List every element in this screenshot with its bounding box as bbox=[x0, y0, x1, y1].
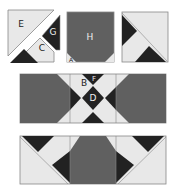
middle-strip: B F D bbox=[20, 74, 166, 123]
label-f: F bbox=[92, 75, 96, 83]
central-medium-piece bbox=[70, 136, 116, 184]
label-h: H bbox=[87, 32, 94, 42]
left-medium-piece bbox=[20, 74, 70, 123]
label-g: G bbox=[50, 27, 57, 37]
quilt-block-diagram: E G C H A B F D bbox=[0, 0, 176, 192]
label-c: C bbox=[39, 43, 45, 53]
label-b: B bbox=[81, 78, 87, 88]
exploded-corner-block: E G C bbox=[8, 10, 60, 63]
bottom-strip bbox=[20, 136, 166, 184]
label-d: D bbox=[90, 93, 97, 103]
label-e: E bbox=[18, 19, 24, 29]
h-square-block: H A bbox=[67, 12, 114, 63]
right-medium-piece bbox=[116, 74, 166, 123]
diagonal-block bbox=[122, 12, 168, 62]
